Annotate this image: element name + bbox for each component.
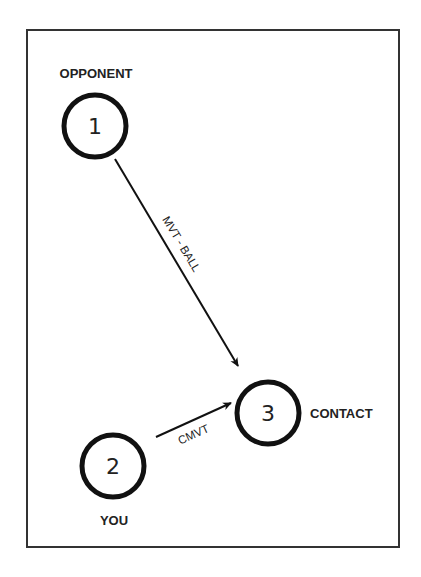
edge-cmvt: CMVT (156, 403, 231, 447)
edge-mvt-ball: MVT - BALL (115, 159, 238, 366)
node-number-1: 1 (88, 114, 102, 139)
node-label-contact: CONTACT (310, 406, 373, 421)
node-label-you: YOU (100, 513, 128, 528)
node-number-3: 3 (261, 401, 275, 426)
arrow-mvt-ball (115, 159, 238, 366)
node-you: 2 YOU (82, 435, 144, 528)
diagram-canvas: OPPONENT 1 2 YOU 3 CONTACT MVT - BALL CM… (0, 0, 421, 577)
node-number-2: 2 (106, 454, 120, 479)
node-label-opponent: OPPONENT (60, 66, 133, 81)
node-opponent: OPPONENT 1 (60, 66, 133, 157)
node-contact: 3 CONTACT (237, 382, 373, 444)
